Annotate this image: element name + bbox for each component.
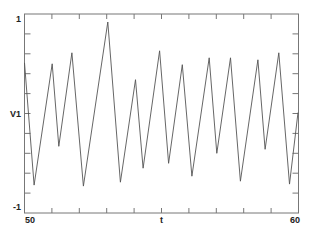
x-tick-label-left: 50: [25, 215, 35, 225]
line-chart: 1 -1 V1 50 60 t: [0, 0, 314, 233]
plot-frame: [25, 14, 299, 213]
y-axis-label: V1: [10, 109, 21, 119]
y-tick-label-top: 1: [16, 14, 21, 24]
y-tick-label-bottom: -1: [13, 202, 21, 212]
x-tick-label-right: 60: [290, 215, 300, 225]
x-ticks-top: [52, 14, 271, 19]
x-ticks-bottom: [52, 208, 271, 213]
y-ticks-left: [25, 34, 31, 193]
data-series-v1: [25, 22, 299, 186]
x-axis-label: t: [160, 215, 163, 225]
